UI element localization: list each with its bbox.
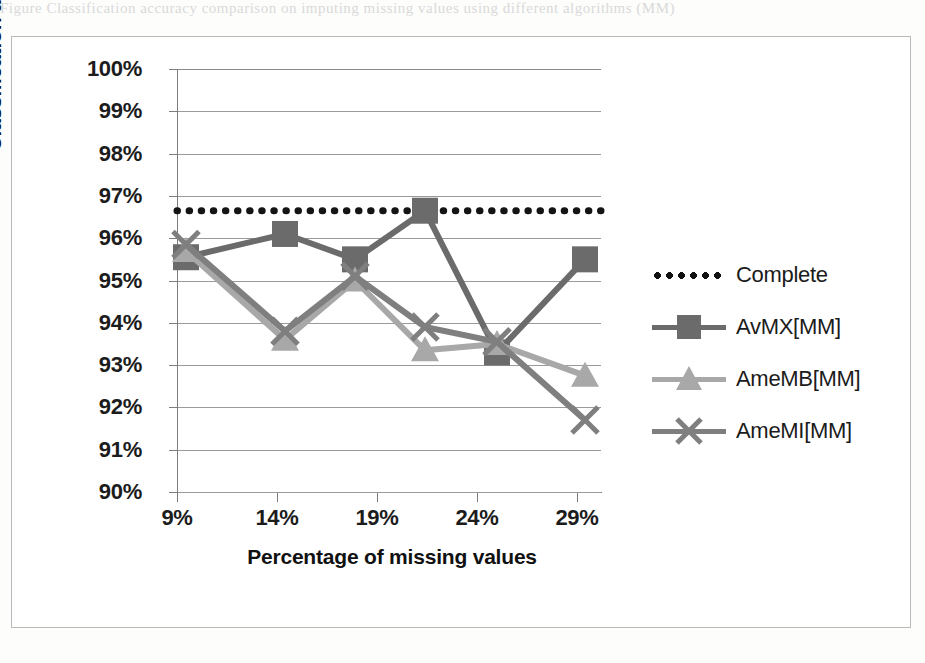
y-axis-title: Classification accuracy [0, 0, 6, 187]
series-line [186, 211, 585, 353]
y-axis-tick-label: 90% [22, 479, 142, 505]
legend-marker-square-icon [674, 312, 704, 342]
x-axis-title: Percentage of missing values [92, 545, 692, 569]
data-point-marker-x [572, 407, 598, 433]
x-axis-tick [477, 493, 478, 502]
y-axis-tick-label: 97% [22, 183, 142, 209]
x-axis-tick [277, 493, 278, 502]
y-axis-tick-label: 91% [22, 437, 142, 463]
series-layer [177, 69, 601, 492]
legend-label: AmeMI[MM] [736, 418, 852, 444]
legend-swatch-triangle-icon [652, 368, 726, 390]
legend-marker-x-icon [674, 416, 704, 446]
legend-marker-triangle-icon [674, 364, 704, 394]
series-line [186, 245, 585, 421]
x-axis-tick-label: 14% [232, 505, 322, 531]
x-axis-tick-label: 29% [532, 505, 622, 531]
x-axis-tick-label: 9% [132, 505, 222, 531]
x-axis-tick-label: 24% [432, 505, 522, 531]
dotted-line-icon [654, 272, 724, 279]
series-avmxmm [173, 198, 598, 366]
series-line [186, 251, 585, 376]
y-axis-tick-label: 93% [22, 352, 142, 378]
data-point-marker-square [412, 198, 438, 224]
legend-label: AmeMB[MM] [736, 366, 860, 392]
plot-area [177, 69, 601, 492]
y-axis-tick-label: 92% [22, 394, 142, 420]
x-axis-tick [377, 493, 378, 502]
legend-item-complete[interactable]: Complete [652, 249, 902, 301]
legend-label: Complete [736, 262, 828, 288]
y-axis-tick-label: 94% [22, 310, 142, 336]
data-point-marker-square [272, 221, 298, 247]
chart-frame: Classification accuracy Percentage of mi… [11, 36, 911, 628]
legend-item-avmxmm[interactable]: AvMX[MM] [652, 301, 902, 353]
data-point-marker-square [572, 246, 598, 272]
y-axis-tick-label: 98% [22, 141, 142, 167]
y-axis-tick-label: 96% [22, 225, 142, 251]
page-caption-sliver: Figure Classification accuracy compariso… [0, 0, 925, 16]
legend-item-amemimm[interactable]: AmeMI[MM] [652, 405, 902, 457]
y-axis-tick-label: 100% [22, 56, 142, 82]
legend-item-amembmm[interactable]: AmeMB[MM] [652, 353, 902, 405]
legend-swatch-dotted-icon [652, 264, 726, 286]
legend-swatch-x-icon [652, 420, 726, 442]
y-axis-tick-label: 95% [22, 268, 142, 294]
y-axis-tick-label: 99% [22, 98, 142, 124]
gridline [177, 492, 601, 493]
chart-legend: CompleteAvMX[MM]AmeMB[MM]AmeMI[MM] [652, 249, 902, 457]
legend-label: AvMX[MM] [736, 314, 841, 340]
legend-swatch-square-icon [652, 316, 726, 338]
series-amemimm [173, 232, 598, 434]
x-axis-tick [577, 493, 578, 502]
x-axis-tick-label: 19% [332, 505, 422, 531]
